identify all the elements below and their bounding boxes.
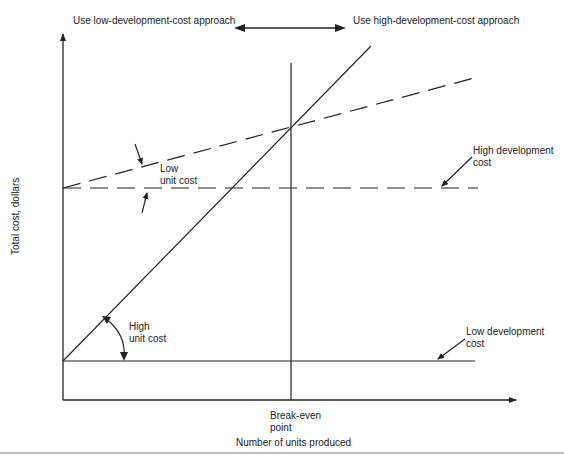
low-dev-cost-pointer-icon (438, 339, 465, 359)
break-even-label-2: point (270, 422, 292, 434)
low-unit-cost-label-1: Low (160, 163, 178, 175)
high-unit-cost-label-2: unit cost (129, 333, 166, 345)
approach-double-arrow-icon (234, 24, 346, 32)
high-dev-approach-label: Use high-development-cost approach (353, 15, 519, 27)
low-unit-cost-label-2: unit cost (160, 175, 197, 187)
high-dev-cost-label-1: High development (473, 145, 554, 157)
y-axis-label: Total cost, dollars (10, 178, 21, 255)
low-dev-approach-label: Use low-development-cost approach (73, 15, 235, 27)
high-dev-cost-pointer-icon (442, 157, 472, 186)
low-unit-cost-arrows-icon (135, 144, 147, 213)
low-dev-high-unit-cost-total-line (63, 46, 371, 361)
low-dev-cost-label-2: cost (466, 338, 484, 350)
low-dev-cost-label-1: Low development (466, 326, 544, 338)
high-dev-low-unit-cost-total-line (63, 77, 478, 188)
bottom-divider (0, 452, 564, 454)
break-even-diagram: Use low-development-cost approach Use hi… (0, 0, 564, 465)
high-dev-cost-label-2: cost (473, 157, 491, 169)
x-axis-label: Number of units produced (236, 437, 351, 449)
high-unit-cost-label-1: High (129, 321, 150, 333)
diagram-canvas (0, 0, 564, 465)
break-even-label-1: Break-even (270, 410, 321, 422)
high-unit-cost-arc-icon (102, 316, 128, 361)
